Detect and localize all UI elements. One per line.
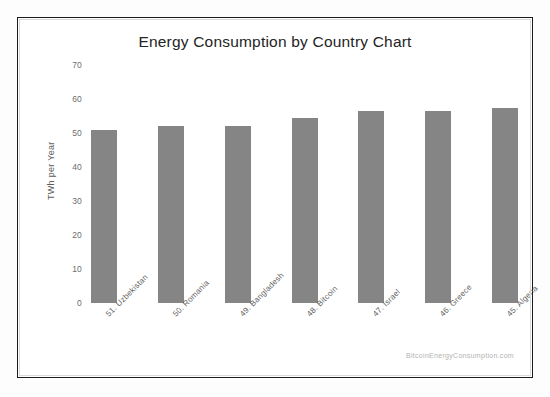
y-tick-label: 20: [72, 230, 82, 240]
bar: [91, 130, 117, 303]
y-tick-label: 40: [72, 162, 82, 172]
chart-frame: Energy Consumption by Country Chart TWh …: [17, 17, 533, 378]
bar: [158, 126, 184, 303]
y-axis-title: TWh per Year: [46, 141, 56, 200]
y-tick-label: 30: [72, 196, 82, 206]
y-tick-label: 50: [72, 128, 82, 138]
chart-title: Energy Consumption by Country Chart: [18, 33, 532, 51]
bar: [358, 111, 384, 303]
bar: [225, 126, 251, 303]
y-tick-label: 60: [72, 94, 82, 104]
y-tick-label: 70: [72, 60, 82, 70]
bar: [492, 108, 518, 303]
plot-area: 01020304050607051. Uzbekistan50. Romania…: [91, 65, 518, 303]
bar: [425, 111, 451, 303]
watermark: BitcoinEnergyConsumption.com: [406, 352, 514, 359]
y-tick-label: 0: [77, 298, 82, 308]
y-tick-label: 10: [72, 264, 82, 274]
bar: [292, 118, 318, 303]
